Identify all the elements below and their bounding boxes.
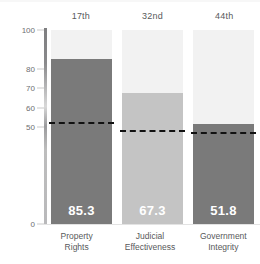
- y-tick-label-100: 100: [22, 26, 35, 35]
- bar-group-government-integrity[interactable]: 51.8: [193, 30, 253, 224]
- plot-area: 85.3 67.3 51.8: [45, 30, 260, 224]
- category-label-judicial-effectiveness: Judicial Effectiveness: [113, 231, 186, 253]
- category-label-government-integrity: Government Integrity: [187, 231, 260, 253]
- bar-group-property-rights[interactable]: 85.3: [51, 30, 111, 224]
- y-axis: 100 80 70 60 50 0: [0, 30, 45, 224]
- category-label-property-rights: Property Rights: [40, 231, 113, 253]
- rank-label-government-integrity: 44th: [188, 6, 260, 26]
- top-divider: [0, 0, 260, 2]
- rank-label-property-rights: 17th: [45, 6, 117, 26]
- bar-value-judicial-effectiveness: 67.3: [122, 203, 182, 218]
- bar-judicial-effectiveness[interactable]: 67.3: [122, 93, 182, 224]
- bar-government-integrity[interactable]: 51.8: [193, 124, 253, 224]
- category-label-line2: Integrity: [187, 242, 260, 253]
- y-tick-label-80: 80: [26, 64, 35, 73]
- bar-chart: 17th 32nd 44th 100 80 70 60 50 0 85.3: [0, 0, 260, 264]
- category-label-line1: Judicial: [113, 231, 186, 242]
- category-label-row: Property Rights Judicial Effectiveness G…: [40, 231, 260, 253]
- y-tick-label-60: 60: [26, 103, 35, 112]
- bar-group-judicial-effectiveness[interactable]: 67.3: [122, 30, 182, 224]
- y-tick-label-50: 50: [26, 123, 35, 132]
- y-tick-label-0: 0: [31, 220, 35, 229]
- reference-line-property-rights: [49, 122, 113, 124]
- y-tick-label-70: 70: [26, 84, 35, 93]
- bar-value-government-integrity: 51.8: [193, 203, 253, 218]
- rank-label-judicial-effectiveness: 32nd: [117, 6, 189, 26]
- bar-property-rights[interactable]: 85.3: [51, 59, 111, 224]
- category-label-line1: Government: [187, 231, 260, 242]
- x-axis-baseline: [45, 224, 260, 225]
- rank-header-row: 17th 32nd 44th: [45, 6, 260, 26]
- reference-line-judicial-effectiveness: [120, 130, 184, 132]
- category-label-line1: Property: [40, 231, 113, 242]
- category-label-line2: Rights: [40, 242, 113, 253]
- category-label-line2: Effectiveness: [113, 242, 186, 253]
- reference-line-government-integrity: [191, 132, 255, 134]
- bar-value-property-rights: 85.3: [51, 203, 111, 218]
